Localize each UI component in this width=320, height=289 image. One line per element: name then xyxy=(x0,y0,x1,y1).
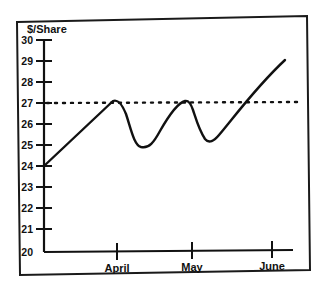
x-tick-label-april: April xyxy=(104,262,129,274)
y-tick-label: 26 xyxy=(21,118,33,130)
y-axis-label: $/Share xyxy=(27,23,67,35)
y-tick-label: 21 xyxy=(21,223,33,235)
y-tick-label: 27 xyxy=(21,97,33,109)
y-tick-label: 24 xyxy=(21,160,33,172)
x-tick-label-june: June xyxy=(259,260,285,272)
y-tick-label: 23 xyxy=(21,181,33,193)
y-tick-label: 20 xyxy=(21,246,33,258)
x-tick-label-may: May xyxy=(181,261,203,273)
y-tick-label: 25 xyxy=(21,139,33,151)
chart-canvas: 30 29 28 27 26 25 24 23 22 21 20 $/Share… xyxy=(0,0,320,289)
y-tick-label: 28 xyxy=(21,76,33,88)
y-tick-label: 30 xyxy=(21,34,33,46)
plot-area xyxy=(44,30,302,255)
y-tick-label: 29 xyxy=(21,55,33,67)
y-tick-labels: 30 29 28 27 26 25 24 23 22 21 20 xyxy=(21,34,33,258)
chart-figure: 30 29 28 27 26 25 24 23 22 21 20 $/Share… xyxy=(0,0,320,289)
y-tick-label: 22 xyxy=(21,202,33,214)
